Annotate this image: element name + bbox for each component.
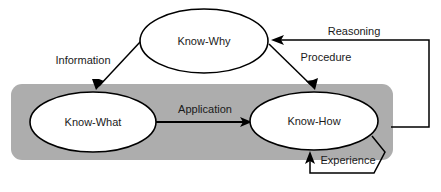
know-how-label: Know-How [287, 115, 340, 127]
edge-label-application: Application [178, 103, 232, 115]
diagram-canvas: Know-Why Know-What Know-How Information … [0, 0, 441, 192]
knowledge-diagram: Know-Why Know-What Know-How Information … [0, 0, 441, 192]
node-know-how[interactable]: Know-How [250, 92, 378, 150]
node-know-why[interactable]: Know-Why [140, 9, 268, 73]
know-what-label: Know-What [65, 116, 122, 128]
edge-label-reasoning: Reasoning [328, 25, 381, 37]
know-why-label: Know-Why [177, 35, 231, 47]
node-know-what[interactable]: Know-What [30, 92, 156, 152]
edge-label-procedure: Procedure [301, 51, 352, 63]
edge-label-experience: Experience [320, 154, 375, 166]
edge-label-information: Information [55, 54, 110, 66]
